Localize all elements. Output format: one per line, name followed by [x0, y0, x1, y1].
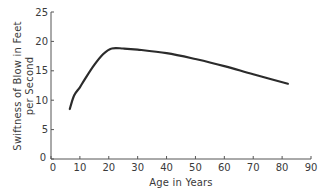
x-tick-label: 10	[74, 162, 87, 173]
x-tick-label: 70	[247, 162, 260, 173]
y-tick-label: 25	[35, 7, 48, 18]
x-tick-label: 0	[50, 162, 56, 173]
y-tick-label: 20	[35, 36, 48, 47]
x-tick-label: 20	[102, 162, 115, 173]
y-tick-label: 5	[42, 124, 48, 135]
y-axis-title-line-2: per Second	[24, 57, 35, 116]
x-tick-label: 30	[131, 162, 144, 173]
data-line	[70, 48, 288, 109]
y-tick-label: 15	[35, 65, 48, 76]
x-tick-label: 40	[160, 162, 173, 173]
line-chart: 0510152025 Swiftness of Blow in Feet per…	[0, 0, 326, 191]
x-tick-label: 50	[189, 162, 202, 173]
x-tick-label: 90	[305, 162, 318, 173]
x-axis: 0102030405060708090 Age in Years	[50, 156, 318, 188]
y-tick-label: 10	[35, 95, 48, 106]
x-axis-title: Age in Years	[149, 177, 213, 188]
x-tick-label: 60	[218, 162, 231, 173]
x-tick-label: 80	[276, 162, 289, 173]
y-tick-label: 0	[40, 152, 46, 163]
y-axis: 0510152025 Swiftness of Blow in Feet per…	[12, 7, 54, 163]
y-axis-title-line-1: Swiftness of Blow in Feet	[12, 21, 23, 150]
